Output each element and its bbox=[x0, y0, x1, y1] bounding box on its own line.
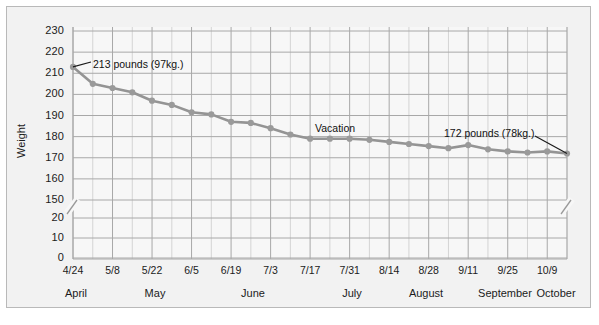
annotation-end-weight: 172 pounds (78kg.) bbox=[444, 127, 534, 139]
y-tick-20: 20 bbox=[30, 211, 64, 223]
x-tick-8-28: 8/28 bbox=[407, 264, 451, 276]
x-tick-7-3: 7/3 bbox=[249, 264, 293, 276]
y-tick-150: 150 bbox=[30, 193, 64, 205]
month-label-august: August bbox=[386, 287, 466, 299]
y-tick-180: 180 bbox=[30, 130, 64, 142]
y-tick-10: 10 bbox=[30, 231, 64, 243]
y-tick-0: 0 bbox=[30, 251, 64, 263]
chart-page: 23022021020019018017016015020100 4/245/8… bbox=[0, 0, 599, 325]
y-tick-190: 190 bbox=[30, 109, 64, 121]
weight-line-chart bbox=[0, 0, 599, 325]
month-label-october: October bbox=[516, 287, 596, 299]
x-tick-7-17: 7/17 bbox=[288, 264, 332, 276]
x-tick-5-8: 5/8 bbox=[91, 264, 135, 276]
y-axis-title: Weight bbox=[15, 111, 27, 171]
x-tick-6-5: 6/5 bbox=[170, 264, 214, 276]
x-tick-6-19: 6/19 bbox=[209, 264, 253, 276]
y-tick-170: 170 bbox=[30, 151, 64, 163]
y-tick-220: 220 bbox=[30, 45, 64, 57]
x-tick-8-14: 8/14 bbox=[367, 264, 411, 276]
month-label-april: April bbox=[36, 287, 116, 299]
x-tick-10-9: 10/9 bbox=[525, 264, 569, 276]
y-tick-210: 210 bbox=[30, 66, 64, 78]
x-tick-9-11: 9/11 bbox=[446, 264, 490, 276]
annotation-vacation: Vacation bbox=[315, 122, 355, 134]
annotation-start-weight: 213 pounds (97kg.) bbox=[93, 58, 183, 70]
y-tick-200: 200 bbox=[30, 87, 64, 99]
y-tick-230: 230 bbox=[30, 24, 64, 36]
x-tick-4-24: 4/24 bbox=[51, 264, 95, 276]
x-tick-5-22: 5/22 bbox=[130, 264, 174, 276]
month-label-may: May bbox=[115, 287, 195, 299]
x-tick-9-25: 9/25 bbox=[486, 264, 530, 276]
y-tick-160: 160 bbox=[30, 172, 64, 184]
month-label-july: July bbox=[312, 287, 392, 299]
x-tick-7-31: 7/31 bbox=[328, 264, 372, 276]
month-label-june: June bbox=[213, 287, 293, 299]
